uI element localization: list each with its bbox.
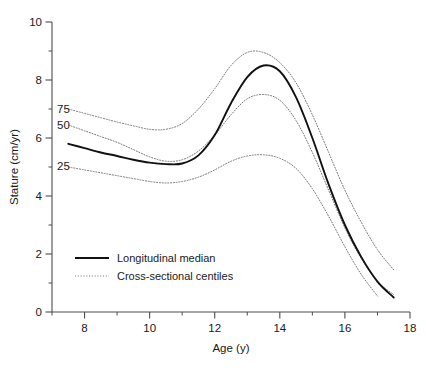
centile-annotation: 25 xyxy=(57,160,70,172)
y-tick-label: 6 xyxy=(36,132,42,144)
y-tick-label: 0 xyxy=(36,306,42,318)
x-tick-label: 18 xyxy=(404,322,417,334)
centile-annotation: 50 xyxy=(57,119,70,131)
centile-curve xyxy=(68,94,393,294)
chart-canvas: 024681081012141618Age (y)Stature (cm/yr)… xyxy=(0,0,426,368)
growth-velocity-chart: 024681081012141618Age (y)Stature (cm/yr)… xyxy=(0,0,426,368)
x-tick-label: 8 xyxy=(81,322,87,334)
y-tick-label: 2 xyxy=(36,248,42,260)
x-axis-title: Age (y) xyxy=(212,342,249,354)
legend-label: Cross-sectional centiles xyxy=(117,270,234,282)
y-tick-label: 8 xyxy=(36,74,42,86)
x-tick-label: 10 xyxy=(143,322,156,334)
centile-annotation: 75 xyxy=(57,103,70,115)
legend-label: Longitudinal median xyxy=(117,252,215,264)
centile-curve xyxy=(68,51,393,270)
x-tick-label: 16 xyxy=(339,322,352,334)
y-tick-label: 4 xyxy=(36,190,43,202)
y-axis-title: Stature (cm/yr) xyxy=(8,129,20,205)
x-tick-label: 12 xyxy=(208,322,221,334)
y-tick-label: 10 xyxy=(29,16,42,28)
x-tick-label: 14 xyxy=(273,322,286,334)
